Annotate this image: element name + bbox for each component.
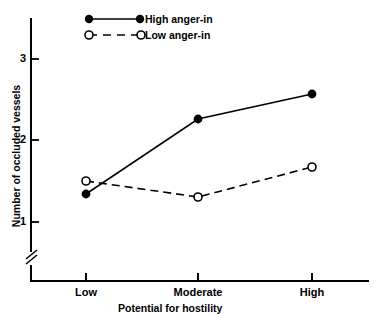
x-tick-label-high: High bbox=[282, 286, 342, 298]
line-chart-plot bbox=[0, 0, 374, 314]
x-tick-label-low: Low bbox=[56, 286, 116, 298]
filled-circle-icon bbox=[136, 15, 144, 23]
axis-break-icon bbox=[26, 250, 37, 264]
data-point-high-anger-in-high bbox=[308, 90, 317, 99]
legend-label-low-anger-in: Low anger-in bbox=[145, 29, 210, 41]
legend-swatch-low-anger-in bbox=[85, 31, 145, 39]
series-line-high-anger-in bbox=[86, 94, 312, 194]
x-axis-title: Potential for hostility bbox=[118, 302, 222, 314]
y-axis-title-text: Number of occluded vessels bbox=[10, 76, 22, 236]
open-circle-icon bbox=[137, 31, 145, 39]
x-tick-label-moderate: Moderate bbox=[158, 286, 238, 298]
legend-swatch-high-anger-in bbox=[85, 15, 144, 23]
y-axis-title: Number of occluded vessels bbox=[10, 76, 26, 236]
data-point-low-anger-in-moderate bbox=[194, 193, 202, 201]
y-tick-label-3: 3 bbox=[10, 52, 26, 64]
chart-figure: 3 2 1 Low Moderate High Potential for ho… bbox=[0, 0, 374, 314]
filled-circle-icon bbox=[85, 15, 93, 23]
data-point-high-anger-in-low bbox=[82, 190, 91, 199]
legend-label-high-anger-in: High anger-in bbox=[145, 13, 213, 25]
data-point-high-anger-in-moderate bbox=[194, 115, 203, 124]
open-circle-icon bbox=[85, 31, 93, 39]
data-point-low-anger-in-high bbox=[308, 163, 316, 171]
data-point-low-anger-in-low bbox=[82, 177, 90, 185]
